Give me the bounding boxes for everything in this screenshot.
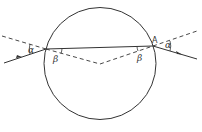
point-a-label: A — [152, 36, 158, 45]
beta-right-arc — [137, 47, 138, 52]
beta-left-arc — [61, 49, 62, 54]
sphere-circle — [44, 8, 156, 120]
alpha-left-label: α — [28, 45, 34, 55]
incident-ray — [4, 49, 46, 63]
left-normal-extension — [2, 36, 46, 49]
beta-right-label: β — [136, 53, 142, 63]
refraction-diagram: α β β A α — [0, 0, 202, 132]
right-radius — [100, 46, 153, 64]
right-normal-extension — [153, 31, 197, 46]
emergent-ray — [153, 46, 197, 59]
alpha-right-label: α — [165, 40, 171, 50]
beta-left-label: β — [52, 54, 58, 64]
